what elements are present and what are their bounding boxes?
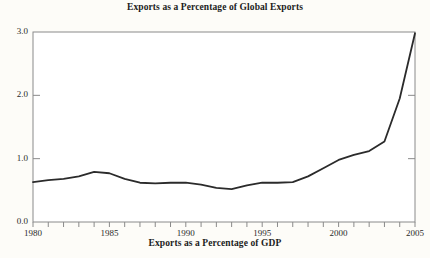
x-tick-label: 2005	[395, 228, 430, 238]
x-tick-label: 2000	[319, 228, 359, 238]
y-tick-label: 3.0	[2, 26, 28, 36]
y-tick-label: 1.0	[2, 153, 28, 163]
x-tick-label: 1995	[242, 228, 282, 238]
chart-figure: Exports as a Percentage of Global Export…	[0, 0, 430, 258]
plot-frame	[33, 32, 415, 222]
x-tick-label: 1990	[166, 228, 206, 238]
x-axis-caption: Exports as a Percentage of GDP	[0, 238, 430, 248]
x-tick-label: 1985	[89, 228, 129, 238]
x-tick-label: 1980	[13, 228, 53, 238]
plot-area	[0, 0, 430, 258]
y-tick-label: 2.0	[2, 89, 28, 99]
y-tick-label: 0.0	[2, 216, 28, 226]
x-tick-marks	[33, 222, 415, 227]
